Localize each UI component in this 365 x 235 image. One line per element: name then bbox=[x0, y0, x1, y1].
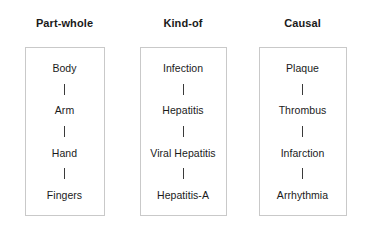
relation-column-part-whole: Part-whole Body Arm Hand Fingers bbox=[3, 0, 123, 216]
chain-connector-line bbox=[64, 168, 65, 179]
chain-node: Infection bbox=[163, 62, 203, 74]
chain-connector-line bbox=[302, 126, 303, 137]
chain-kind-of: Infection Hepatitis Viral Hepatitis Hepa… bbox=[141, 62, 226, 201]
chain-connector-line bbox=[64, 84, 65, 95]
chain-connector-line bbox=[183, 126, 184, 137]
chain-part-whole: Body Arm Hand Fingers bbox=[26, 62, 104, 201]
chain-node: Arm bbox=[55, 104, 74, 116]
chain-node: Infarction bbox=[281, 147, 325, 159]
chain-node: Hepatitis-A bbox=[157, 189, 209, 201]
column-title-causal: Causal bbox=[284, 17, 321, 29]
chain-connector-line bbox=[302, 168, 303, 179]
chain-node: Arrhythmia bbox=[277, 189, 328, 201]
chain-connector-line bbox=[183, 84, 184, 95]
relation-type-diagram: Part-whole Body Arm Hand Fingers Kind-of… bbox=[0, 0, 365, 235]
relation-column-causal: Causal Plaque Thrombus Infarction Arrhyt… bbox=[243, 0, 363, 216]
chain-node: Body bbox=[52, 62, 76, 74]
chain-node: Viral Hepatitis bbox=[150, 147, 215, 159]
chain-box-part-whole: Body Arm Hand Fingers bbox=[25, 47, 105, 216]
chain-causal: Plaque Thrombus Infarction Arrhythmia bbox=[260, 62, 346, 201]
chain-connector-line bbox=[183, 168, 184, 179]
chain-node: Hand bbox=[52, 147, 77, 159]
chain-node: Plaque bbox=[286, 62, 319, 74]
column-title-kind-of: Kind-of bbox=[163, 17, 202, 29]
chain-box-causal: Plaque Thrombus Infarction Arrhythmia bbox=[259, 47, 347, 216]
chain-connector-line bbox=[64, 126, 65, 137]
chain-node: Fingers bbox=[47, 189, 82, 201]
chain-node: Thrombus bbox=[279, 104, 327, 116]
chain-node: Hepatitis bbox=[162, 104, 203, 116]
column-title-part-whole: Part-whole bbox=[36, 17, 93, 29]
relation-column-kind-of: Kind-of Infection Hepatitis Viral Hepati… bbox=[123, 0, 243, 216]
chain-box-kind-of: Infection Hepatitis Viral Hepatitis Hepa… bbox=[140, 47, 227, 216]
chain-connector-line bbox=[302, 84, 303, 95]
